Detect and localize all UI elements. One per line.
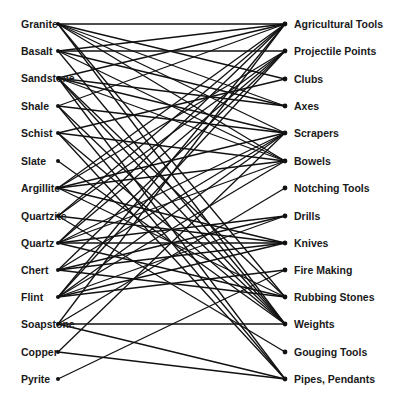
use-label-gouging-tools: Gouging Tools xyxy=(294,346,367,358)
use-node-axes xyxy=(283,104,288,109)
material-node-chert xyxy=(56,268,60,272)
material-node-pyrite xyxy=(56,377,60,381)
use-label-knives: Knives xyxy=(294,237,329,249)
material-label-soapstone: Soapstone xyxy=(21,318,75,330)
use-label-pipes-pendants: Pipes, Pendants xyxy=(294,373,375,385)
material-node-soapstone xyxy=(56,322,60,326)
use-label-scrapers: Scrapers xyxy=(294,127,339,139)
use-node-agricultural-tools xyxy=(283,22,288,27)
material-use-diagram: GraniteBasaltSandstoneShaleSchistSlateAr… xyxy=(0,0,393,407)
use-label-projectile-points: Projectile Points xyxy=(294,45,376,57)
material-label-copper: Copper xyxy=(21,346,58,358)
material-node-quartz xyxy=(56,241,60,245)
use-label-notching-tools: Notching Tools xyxy=(294,182,370,194)
material-node-flint xyxy=(56,295,60,299)
material-label-shale: Shale xyxy=(21,100,49,112)
material-label-quartz: Quartz xyxy=(21,237,54,249)
material-label-sandstone: Sandstone xyxy=(21,72,75,84)
use-label-agricultural-tools: Agricultural Tools xyxy=(294,18,383,30)
edge-quartz-to-agricultural-tools xyxy=(58,24,285,243)
use-node-gouging-tools xyxy=(283,350,288,355)
material-node-copper xyxy=(56,350,60,354)
use-node-knives xyxy=(283,241,288,246)
material-label-argillite: Argillite xyxy=(21,182,60,194)
use-node-scrapers xyxy=(283,131,288,136)
material-node-shale xyxy=(56,104,60,108)
material-node-basalt xyxy=(56,49,60,53)
material-label-slate: Slate xyxy=(21,155,46,167)
use-label-fire-making: Fire Making xyxy=(294,264,352,276)
use-node-pipes-pendants xyxy=(283,377,288,382)
use-node-weights xyxy=(283,322,288,327)
edge-basalt-to-axes xyxy=(58,51,285,106)
edge-copper-to-pipes-pendants xyxy=(58,352,285,379)
use-label-clubs: Clubs xyxy=(294,73,323,85)
material-label-chert: Chert xyxy=(21,264,49,276)
use-node-clubs xyxy=(283,77,288,82)
use-label-drills: Drills xyxy=(294,210,320,222)
use-nodes: Agricultural ToolsProjectile PointsClubs… xyxy=(283,18,384,385)
material-label-flint: Flint xyxy=(21,291,44,303)
material-label-pyrite: Pyrite xyxy=(21,373,50,385)
edges xyxy=(58,24,285,379)
use-node-notching-tools xyxy=(283,186,288,191)
edge-argillite-to-agricultural-tools xyxy=(58,24,285,188)
material-node-argillite xyxy=(56,186,60,190)
use-node-projectile-points xyxy=(283,49,288,54)
material-label-basalt: Basalt xyxy=(21,45,53,57)
material-node-granite xyxy=(56,22,60,26)
material-node-slate xyxy=(56,159,60,163)
use-node-bowels xyxy=(283,159,288,164)
use-label-weights: Weights xyxy=(294,318,335,330)
material-node-schist xyxy=(56,131,60,135)
edge-flint-to-bowels xyxy=(58,161,285,297)
material-node-quartzite xyxy=(56,214,60,218)
use-node-drills xyxy=(283,214,288,219)
material-node-sandstone xyxy=(56,76,60,80)
edge-basalt-to-agricultural-tools xyxy=(58,24,285,51)
use-label-axes: Axes xyxy=(294,100,319,112)
material-label-schist: Schist xyxy=(21,127,53,139)
edge-chert-to-scrapers xyxy=(58,133,285,270)
material-nodes: GraniteBasaltSandstoneShaleSchistSlateAr… xyxy=(21,18,75,385)
use-node-rubbing-stones xyxy=(283,295,288,300)
use-node-fire-making xyxy=(283,268,288,273)
use-label-rubbing-stones: Rubbing Stones xyxy=(294,291,375,303)
use-label-bowels: Bowels xyxy=(294,155,331,167)
material-label-granite: Granite xyxy=(21,18,58,30)
